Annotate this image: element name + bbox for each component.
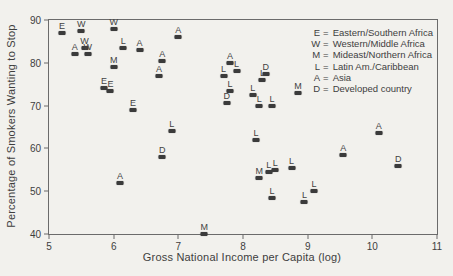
data-point-letter: A [117,172,123,181]
data-point-letter: D [395,155,402,164]
data-point-marker [159,155,166,159]
data-point-letter: L [270,187,275,196]
legend-row-A: A=Asia [306,72,433,83]
data-point-marker [71,52,78,56]
data-point-letter: E [59,22,65,31]
legend-equals-sign: = [323,38,329,49]
data-point-W: W [84,52,91,56]
legend: E=Eastern/Southern AfricaW=Western/Middl… [306,27,433,94]
data-point-marker [110,27,117,31]
legend-letter: A [306,72,320,83]
y-tick-label: 60 [30,143,41,154]
data-point-L: L [220,74,227,78]
data-point-marker [175,35,182,39]
data-point-A: A [175,35,182,39]
data-point-A: A [117,181,124,185]
data-point-letter: L [253,129,258,138]
data-point-L: L [288,166,295,170]
data-point-letter: M [110,56,118,65]
data-point-marker [375,131,382,135]
data-point-letter: A [175,26,181,35]
data-point-marker [256,176,263,180]
x-tick-mark [178,234,179,239]
data-point-marker [84,52,91,56]
data-point-letter: A [137,39,143,48]
data-point-marker [78,29,85,33]
data-point-letter: W [77,20,86,29]
data-point-marker [272,168,279,172]
data-point-E: E [107,89,114,93]
data-point-marker [340,153,347,157]
x-tick-mark [307,234,308,239]
legend-letter: D [306,83,320,94]
data-point-A: A [340,153,347,157]
data-point-marker [223,101,230,105]
y-tick-mark [44,62,49,63]
data-point-letter: A [340,144,346,153]
y-tick-label: 50 [30,186,41,197]
data-point-marker [249,93,256,97]
legend-row-W: W=Western/Middle Africa [306,38,433,49]
data-point-marker [269,196,276,200]
legend-row-D: D=Developed country [306,83,433,94]
legend-row-M: M=Mideast/Northern Africa [306,49,433,60]
data-point-M: M [110,65,117,69]
data-point-letter: A [227,52,233,61]
legend-label: Developed country [333,83,412,94]
data-point-D: D [395,164,402,168]
legend-letter: E [306,27,320,38]
y-tick-mark [44,148,49,149]
data-point-letter: L [221,65,226,74]
data-point-E: E [130,108,137,112]
data-point-marker [201,232,208,236]
data-point-A: A [71,52,78,56]
data-point-L: L [272,168,279,172]
legend-equals-sign: = [323,83,329,94]
y-tick-mark [44,191,49,192]
data-point-letter: A [156,65,162,74]
data-point-L: L [311,189,318,193]
data-point-L: L [168,129,175,133]
data-point-W: W [110,27,117,31]
data-point-marker [220,74,227,78]
legend-letter: M [306,49,320,60]
data-point-marker [117,181,124,185]
data-point-letter: D [224,92,231,101]
data-point-letter: L [266,161,271,170]
data-point-marker [136,48,143,52]
legend-label: Asia [333,72,351,83]
data-point-letter: M [200,223,208,232]
data-point-letter: L [228,80,233,89]
data-point-letter: W [84,43,93,52]
data-point-letter: A [72,43,78,52]
data-point-letter: E [101,77,107,86]
data-point-marker [252,138,259,142]
data-point-marker [120,46,127,50]
data-point-marker [227,61,234,65]
legend-label: Mideast/Northern Africa [333,49,432,60]
data-point-marker [269,104,276,108]
data-point-letter: M [255,167,263,176]
data-point-W: W [78,29,85,33]
data-point-marker [58,31,65,35]
data-point-L: L [252,138,259,142]
legend-equals-sign: = [323,27,329,38]
plot-area: E=Eastern/Southern AfricaW=Western/Middl… [48,19,438,235]
legend-equals-sign: = [323,49,329,60]
data-point-letter: L [250,84,255,93]
y-tick-label: 70 [30,100,41,111]
legend-letter: W [306,38,320,49]
x-axis-title: Gross National Income per Capita (log) [48,251,436,263]
x-tick-mark [113,234,114,239]
data-point-marker [233,69,240,73]
y-axis-title: Percentage of Smokers Wanting to Stop [5,24,17,227]
legend-label: Western/Middle Africa [333,38,425,49]
data-point-marker [288,166,295,170]
y-tick-mark [44,234,49,235]
data-point-A: A [375,131,382,135]
data-point-marker [259,78,266,82]
data-point-marker [256,104,263,108]
data-point-letter: D [159,146,166,155]
data-point-L: L [249,93,256,97]
x-tick-mark [372,234,373,239]
